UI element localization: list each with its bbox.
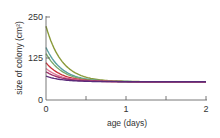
x-tick-label-0: 0 xyxy=(43,104,48,114)
y-tick-label-250: 250 xyxy=(28,12,43,22)
y-axis-label: size of colony (cm²) xyxy=(14,21,24,95)
x-tick-label-2: 2 xyxy=(203,104,208,114)
y-tick-label-0: 0 xyxy=(38,95,43,105)
series-curves xyxy=(46,26,206,81)
x-tick-label-1: 1 xyxy=(123,104,128,114)
x-axis-label: age (days) xyxy=(107,118,147,128)
curve-teal xyxy=(46,48,206,82)
colony-size-chart: 250 125 0 0 1 2 age (days) size of colon… xyxy=(0,0,220,138)
y-tick-label-125: 125 xyxy=(28,53,43,63)
